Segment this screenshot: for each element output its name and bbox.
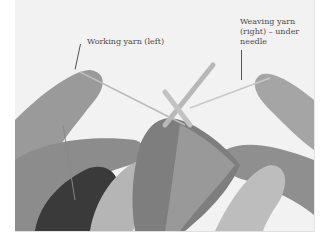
working-yarn-text: Working yarn (left) — [87, 37, 164, 46]
weaving-yarn-line2: (right) – under — [240, 27, 299, 37]
weaving-yarn-line1: Weaving yarn — [240, 17, 299, 27]
weaving-yarn-line3: needle — [240, 37, 299, 47]
right-label-leader — [241, 50, 242, 80]
weaving-yarn-label: Weaving yarn (right) – under needle — [240, 17, 299, 47]
working-yarn-label: Working yarn (left) — [87, 37, 164, 47]
